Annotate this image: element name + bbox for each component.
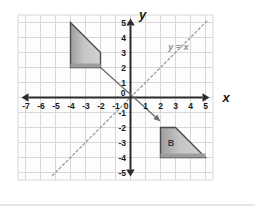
x-tick-label--7: -7 [22,101,30,111]
x-tick-label-5: 5 [203,101,208,111]
x-tick-label--5: -5 [52,101,60,111]
y-tick-label-3: 3 [121,48,126,58]
x-tick-label-3: 3 [173,101,178,111]
y-tick-label--4: -4 [118,153,126,163]
shape-label-b: B [168,138,175,148]
y-tick-label-4: 4 [121,33,126,43]
shape-base-shading [161,154,206,158]
y-tick-label-5: 5 [121,18,126,28]
x-tick-label-2: 2 [158,101,163,111]
y-tick-label--5: -5 [118,168,126,178]
x-tick-label-4: 4 [188,101,193,111]
y-tick-label--2: -2 [118,123,126,133]
line-equation-label: y = x [167,42,189,52]
x-tick-label-1: 1 [143,101,148,111]
x-tick-label--6: -6 [37,101,45,111]
y-tick-label--1: -1 [118,108,126,118]
y-tick-label-2: 2 [121,63,126,73]
shape-base-shading [71,64,101,68]
coordinate-plane-figure: B -7-6-5-4-3-2-1012345543210-1-2-3-4-5yx… [0,0,255,214]
x-tick-label--2: -2 [97,101,105,111]
x-tick-label--3: -3 [82,101,90,111]
y-tick-label--3: -3 [118,138,126,148]
y-tick-label-1: 1 [121,78,126,88]
x-axis-label: x [221,90,230,105]
y-axis-label: y [138,7,147,22]
y-tick-label-0: 0 [121,88,126,98]
x-tick-label--4: -4 [67,101,75,111]
